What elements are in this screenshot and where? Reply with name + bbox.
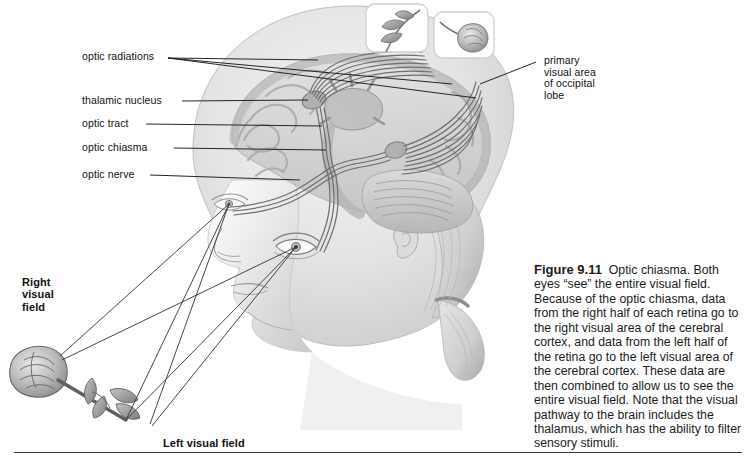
label-left-visual-field: Left visual field xyxy=(163,437,245,449)
inset-left-stem xyxy=(366,4,428,52)
figure-9-11: optic radiations thalamic nucleus optic … xyxy=(0,0,749,469)
figure-number: Figure 9.11 xyxy=(534,262,602,277)
label-right-visual-field: Right visual field xyxy=(22,276,82,313)
label-thalamic-nucleus: thalamic nucleus xyxy=(82,95,162,107)
label-optic-tract: optic tract xyxy=(82,118,129,130)
inset-right-bloom xyxy=(434,12,494,58)
bottom-divider xyxy=(14,452,742,453)
label-primary-visual-area: primary visual area of occipital lobe xyxy=(544,55,636,101)
label-optic-radiations: optic radiations xyxy=(82,51,154,63)
rose-stimulus xyxy=(10,346,140,420)
figure-caption: Figure 9.11 Optic chiasma. Both eyes “se… xyxy=(534,263,746,451)
label-optic-chiasma: optic chiasma xyxy=(82,142,148,154)
figure-caption-text: Optic chiasma. Both eyes “see” the entir… xyxy=(534,263,741,450)
label-optic-nerve: optic nerve xyxy=(82,169,134,181)
